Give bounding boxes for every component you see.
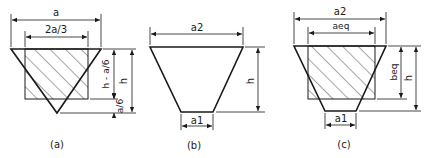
label-a: a — [53, 7, 59, 18]
cross-section-diagram: a 2a/3 h - a/6 a/6 h (a) a2 a1 h (b) — [0, 0, 427, 158]
panel-b-labels: a2 a1 h (b) — [187, 22, 256, 151]
panel-c — [294, 12, 421, 129]
label-h-minus-a6: h - a/6 — [101, 59, 111, 88]
label-a2-b: a2 — [191, 22, 204, 33]
caption-b: (b) — [187, 140, 201, 151]
label-h-c: h — [403, 75, 414, 81]
label-2a-3: 2a/3 — [45, 24, 67, 35]
caption-c: (c) — [337, 139, 350, 150]
label-a1-b: a1 — [191, 115, 204, 126]
label-a2-c: a2 — [334, 6, 347, 17]
label-beq: beq — [389, 64, 399, 81]
label-a6: a/6 — [115, 99, 125, 114]
caption-a: (a) — [50, 139, 64, 150]
label-h-a: h — [118, 78, 129, 84]
label-h-b: h — [245, 78, 256, 84]
label-aeq: aeq — [333, 21, 350, 31]
label-a1-c: a1 — [335, 113, 348, 124]
hatched-equivalent-rectangle — [25, 49, 88, 99]
trapezoid-section — [150, 47, 243, 112]
